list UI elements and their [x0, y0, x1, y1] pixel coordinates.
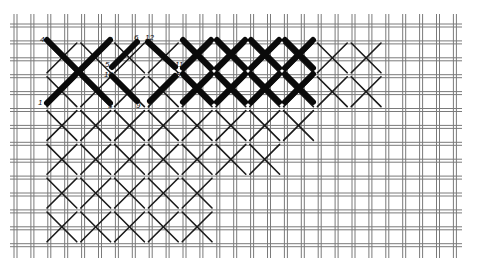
cross-stitch-diagram: 426125101181397	[0, 0, 477, 273]
stitch-number-label: 5	[105, 60, 110, 69]
stitch-number-label: 6	[134, 33, 139, 42]
stitch-number-label: 9	[136, 101, 141, 110]
stitch-number-label: 4	[40, 35, 45, 44]
stitch-number-label: 11	[175, 60, 183, 69]
stitch-number-label: 1	[38, 98, 42, 107]
stitch-number-label: 2	[107, 35, 113, 44]
stitch-number-label: 7	[147, 101, 152, 110]
stitch-7-8	[150, 76, 175, 101]
stitch-number-label: 12	[145, 33, 154, 42]
stitch-order-labels: 426125101181397	[38, 33, 183, 110]
stitch-number-label: 3	[108, 101, 113, 110]
stitch-number-label: 10	[104, 70, 113, 79]
stitch-number-label: 8	[176, 70, 181, 79]
